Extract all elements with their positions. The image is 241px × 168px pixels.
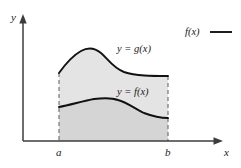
area-between-curves-figure: y x a b y = g(x) y = f(x) f(x): [0, 0, 241, 168]
lower-curve-label: y = f(x): [116, 86, 149, 98]
y-axis-arrowhead: [19, 14, 26, 24]
legend-label: f(x): [185, 26, 200, 38]
figure-canvas: y x a b y = g(x) y = f(x) f(x): [0, 0, 241, 168]
x-axis-arrowhead: [214, 137, 224, 144]
upper-curve-label: y = g(x): [116, 43, 151, 55]
y-axis-label: y: [10, 11, 16, 23]
upper-bound-label: b: [165, 146, 171, 158]
x-axis-label: x: [223, 146, 229, 158]
lower-bound-label: a: [56, 146, 62, 158]
